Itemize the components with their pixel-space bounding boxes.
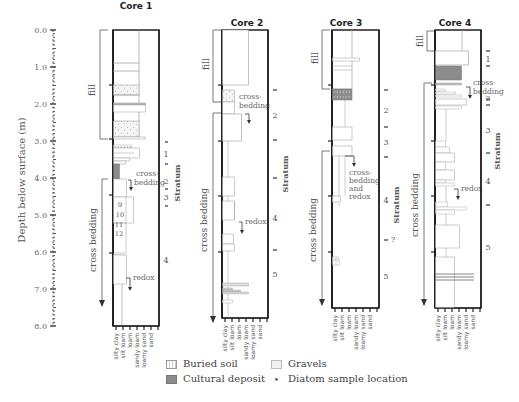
y-tick-label: 0.0 — [34, 26, 47, 35]
core-4-stratum-2: 2 — [485, 94, 490, 103]
texture-label: silt loam — [338, 315, 345, 341]
y-tick-label: 8.0 — [34, 322, 47, 331]
cultural-deposit-swatch-icon — [166, 375, 177, 384]
texture-label: loam — [126, 333, 133, 348]
core-3-crossbedding-label: cross bedding — [308, 198, 318, 262]
core-3-stratum-question: ? — [391, 235, 395, 244]
core-3-stratum-3: 3 — [383, 138, 388, 147]
y-tick-label: 3.0 — [34, 137, 47, 146]
core-2-stratum-2: 2 — [272, 111, 277, 120]
y-tick-label: 6.0 — [34, 248, 47, 257]
sample-9: 9 — [118, 201, 122, 209]
core-1-redox-note: redox — [133, 273, 155, 282]
core-4-stratum-3: 3 — [485, 126, 490, 135]
core-2-crossbedding-label: cross bedding — [199, 188, 209, 252]
core-1-stratum-label: Stratum — [172, 164, 182, 201]
sample-10: 10 — [116, 211, 124, 219]
y-axis-label: Depth below surface (m) — [16, 117, 27, 242]
core-4-stratum-label: Stratum — [492, 132, 502, 169]
core-3-stratum-label: Stratum — [391, 186, 401, 223]
core-1-title: Core 1 — [120, 1, 153, 11]
core-1-stratum-3: 3 — [163, 193, 168, 202]
core-2-fill-label: fill — [201, 58, 211, 70]
texture-label: sand — [366, 315, 373, 330]
core-4-fill-label: fill — [415, 35, 425, 47]
core-4-stratum-5: 5 — [485, 243, 490, 252]
y-tick-label: 5.0 — [34, 211, 47, 220]
core-3-fill-label: fill — [310, 52, 320, 64]
core-2-stratum-label: Stratum — [280, 155, 290, 192]
texture-label: loam — [345, 315, 352, 330]
y-tick-label: 1.0 — [34, 63, 47, 72]
y-tick-label: 7.0 — [34, 285, 47, 294]
core-3-title: Core 3 — [330, 18, 363, 28]
legend-buried-soil: Buried soil — [166, 358, 238, 369]
core-4-redox-note: redox — [461, 184, 483, 193]
buried-soil-swatch-icon — [166, 360, 177, 369]
texture-label: silt loam — [119, 333, 126, 359]
core-1-cross-bedding-note: cross-bedding — [134, 169, 165, 187]
texture-label: loam — [448, 315, 455, 330]
core-4-stratum-4: 4 — [485, 177, 490, 186]
legend-gravels: Gravels — [271, 358, 327, 369]
core-4-crossbedding-label: cross bedding — [410, 173, 420, 237]
diatom-sample-icon: • — [271, 375, 282, 384]
texture-label: silt loam — [441, 315, 448, 341]
legend-diatom: •Diatom sample location — [271, 373, 408, 384]
texture-label: sand — [256, 325, 263, 340]
texture-label: sand — [147, 333, 154, 348]
y-tick-label: 4.0 — [34, 174, 47, 183]
texture-label: loam — [235, 325, 242, 340]
core-1-stratum-2: 2 — [163, 177, 168, 186]
core-2-title: Core 2 — [231, 18, 264, 28]
core-4-stratum-1: 1 — [485, 55, 490, 64]
core-3-stratum-4: 4 — [383, 196, 388, 205]
core-2-redox-note: redox — [245, 217, 267, 226]
stratigraphy-figure: 0.01.02.03.04.05.06.07.08.0 Depth below … — [0, 0, 519, 402]
sample-11: 11 — [115, 221, 123, 229]
texture-label: sand — [469, 315, 476, 330]
y-tick-label: 2.0 — [34, 100, 47, 109]
core-2-stratum-4: 4 — [272, 214, 277, 223]
core-4: Core 4 fill cross bedding — [410, 18, 504, 312]
gravels-swatch-icon — [271, 360, 282, 369]
texture-label: silt loam — [228, 325, 235, 351]
core-3-stratum-2: 2 — [383, 106, 388, 115]
core-1-stratum-1: 1 — [163, 150, 168, 159]
core-1-crossbedding-label: cross bedding — [88, 208, 98, 272]
core-3: Core 3 fill cross bedding cross-beddinga… — [308, 18, 401, 312]
sample-12: 12 — [115, 230, 123, 238]
core-1-stratum-4: 4 — [163, 256, 168, 265]
core-1: Core 1 fill cross bedding 9 10 11 — [87, 1, 182, 330]
legend-cultural-deposit: Cultural deposit — [166, 373, 265, 384]
core-1-fill-label: fill — [87, 84, 97, 96]
core-2: Core 2 fill cross bedding cross-bedding … — [199, 18, 290, 323]
core-2-stratum-5: 5 — [272, 270, 277, 279]
depth-axis: 0.01.02.03.04.05.06.07.08.0 Depth below … — [16, 26, 56, 331]
core-3-stratum-5: 5 — [383, 272, 388, 281]
core-4-title: Core 4 — [439, 18, 472, 28]
